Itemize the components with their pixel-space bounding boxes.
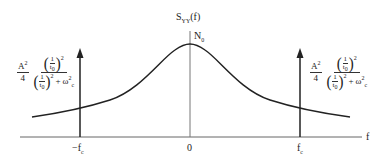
tick-pos-fc: fc (297, 143, 303, 153)
omega-subscript: c (71, 82, 74, 88)
open-paren: ( (44, 55, 49, 72)
plus-sign: + (348, 77, 353, 86)
t-subscript: 0 (52, 66, 55, 72)
arrowhead-up-icon (77, 48, 84, 58)
t-subscript: 0 (345, 66, 348, 72)
coef-a-exponent: 2 (318, 60, 321, 66)
lorentz-denominator: ( 1 t0 ) 2 + ω2c (31, 73, 78, 89)
open-paren: ( (34, 73, 39, 90)
coef-numerator: A2 (310, 62, 322, 73)
impulse-amplitude-right: A2 4 ( 1 t0 ) 2 ( 1 t0 ) 2 + ω2c (310, 56, 370, 89)
inner-denominator: t0 (49, 64, 56, 71)
coefficient-fraction: A2 4 (17, 62, 29, 83)
square-exponent: 2 (50, 73, 53, 79)
tick-zero: 0 (187, 143, 192, 153)
coef-denominator: 4 (313, 73, 320, 83)
close-paren: ) (338, 73, 343, 90)
square-exponent: 2 (61, 55, 64, 61)
tick-neg-fc-symbol: −f (72, 142, 81, 153)
inner-denominator: t0 (39, 82, 46, 89)
peak-subscript: 0 (201, 37, 204, 43)
coef-numerator: A2 (17, 62, 29, 73)
y-axis-argument: (f) (190, 11, 200, 22)
t-subscript: 0 (41, 84, 44, 90)
arrowhead-up-icon (297, 48, 304, 58)
inner-denominator: t0 (342, 64, 349, 71)
y-axis-label: SYY(f) (176, 12, 200, 22)
coefficient-fraction: A2 4 (310, 62, 322, 83)
omega-subscript: c (364, 82, 367, 88)
x-axis-label: f (366, 132, 369, 142)
omega-exponent: 2 (361, 75, 364, 81)
impulse-amplitude-left: A2 4 ( 1 t0 ) 2 ( 1 t0 ) 2 + ω2c (17, 56, 77, 89)
t-subscript: 0 (334, 84, 337, 90)
plus-sign: + (55, 77, 60, 86)
close-paren: ) (45, 73, 50, 90)
close-paren: ) (349, 55, 354, 72)
inner-fraction: 1 t0 (342, 56, 349, 71)
tick-neg-fc: −fc (72, 143, 84, 153)
open-paren: ( (327, 73, 332, 90)
lorentz-numerator: ( 1 t0 ) 2 (41, 56, 67, 73)
close-paren: ) (56, 55, 61, 72)
tick-pos-fc-subscript: c (300, 149, 303, 155)
lorentz-fraction: ( 1 t0 ) 2 ( 1 t0 ) 2 + ω2c (31, 56, 78, 89)
inner-fraction: 1 t0 (332, 74, 339, 89)
omega-c-squared: ω2c (356, 77, 368, 86)
lorentz-denominator: ( 1 t0 ) 2 + ω2c (324, 73, 371, 89)
inner-fraction: 1 t0 (39, 74, 46, 89)
lorentz-fraction: ( 1 t0 ) 2 ( 1 t0 ) 2 + ω2c (324, 56, 371, 89)
y-axis-subscript: YY (182, 18, 191, 24)
inner-fraction: 1 t0 (49, 56, 56, 71)
inner-denominator: t0 (332, 82, 339, 89)
lorentz-numerator: ( 1 t0 ) 2 (334, 56, 360, 73)
coef-a-exponent: 2 (25, 60, 28, 66)
omega-c-squared: ω2c (63, 77, 75, 86)
tick-neg-fc-subscript: c (81, 149, 84, 155)
peak-label: N0 (194, 31, 204, 41)
coef-denominator: 4 (20, 73, 27, 83)
square-exponent: 2 (354, 55, 357, 61)
omega-exponent: 2 (68, 75, 71, 81)
square-exponent: 2 (343, 73, 346, 79)
open-paren: ( (337, 55, 342, 72)
